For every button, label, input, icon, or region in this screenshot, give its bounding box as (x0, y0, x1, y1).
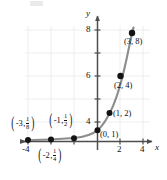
fraction: 1 2 (64, 113, 67, 128)
exponential-graph-figure: y x 8 6 4 -4 2 4 (0, 1) (1, 2) (2, 4) (3… (0, 0, 167, 180)
y-axis-label: y (86, 9, 90, 18)
point-label-2-4: (2, 4) (114, 81, 132, 90)
fraction-x-value: -3 (16, 119, 23, 128)
point-neg3 (25, 137, 31, 143)
fraction-numerator: 1 (64, 113, 67, 120)
x-tick-label-2: 2 (117, 145, 122, 154)
fraction-x-value: -2 (43, 151, 50, 160)
x-tick-label-4: 4 (140, 145, 145, 154)
y-tick-label-4: 4 (86, 117, 91, 126)
fraction-numerator: 1 (26, 116, 29, 123)
point-label-1-2: (1, 2) (113, 109, 131, 118)
point-2 (117, 73, 123, 79)
fraction: 1 8 (26, 116, 29, 131)
x-tick-label-neg4: -4 (22, 145, 30, 154)
fraction-denominator: 8 (26, 123, 29, 131)
fraction: 1 4 (53, 148, 56, 163)
x-axis-label: x (155, 143, 159, 152)
point-1 (107, 110, 113, 116)
fraction-denominator: 4 (53, 155, 56, 163)
point-label-neg1-one-half: ( -1 , 1 2 ) (48, 113, 73, 128)
fraction-x-value: -1 (54, 116, 61, 125)
y-tick-label-6: 6 (86, 71, 91, 80)
fraction-denominator: 2 (64, 120, 67, 128)
y-tick-label-8: 8 (86, 25, 91, 34)
point-label-neg2-one-quarter: ( -2 , 1 4 ) (37, 148, 62, 163)
point-label-3-8: (3, 8) (124, 37, 142, 46)
point-label-neg3-one-eighth: ( -3 , 1 8 ) (10, 116, 35, 131)
point-label-0-1: (0, 1) (100, 130, 118, 139)
fraction-numerator: 1 (53, 148, 56, 155)
point-neg2 (48, 137, 54, 143)
point-neg1 (71, 135, 77, 141)
